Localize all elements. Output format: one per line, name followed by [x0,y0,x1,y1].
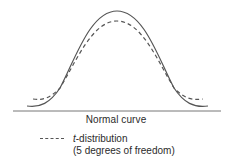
normal-curve-caption: Normal curve [0,114,232,125]
legend-label-suffix: -distribution [76,133,128,144]
legend-label: t-distribution (5 degrees of freedom) [73,133,175,157]
normal-curve [27,11,208,106]
t-distribution-curve [33,21,203,99]
dashed-line-legend-icon [40,138,64,139]
legend-label-line2: (5 degrees of freedom) [73,145,175,156]
